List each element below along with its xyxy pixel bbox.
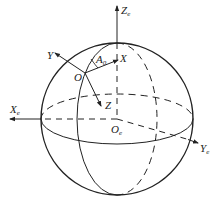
label-o: O: [74, 71, 82, 83]
label-x: X: [119, 52, 128, 64]
label-xe: Xe: [9, 103, 20, 117]
label-oe: Oe: [111, 123, 122, 137]
ye-axis-inside: [117, 119, 190, 140]
diagram-canvas: Ze Xe Ye Oe O X Y Z A0: [0, 0, 214, 201]
coordinate-sphere-diagram: Ze Xe Ye Oe O X Y Z A0: [0, 0, 214, 201]
meridian-back: [117, 43, 157, 195]
label-ze: Ze: [121, 4, 130, 18]
equator-back: [41, 94, 193, 119]
label-a0: A0: [95, 53, 107, 67]
label-z: Z: [105, 99, 112, 111]
label-ye: Ye: [200, 142, 209, 156]
label-y: Y: [47, 49, 55, 61]
local-z-axis: [85, 73, 101, 106]
